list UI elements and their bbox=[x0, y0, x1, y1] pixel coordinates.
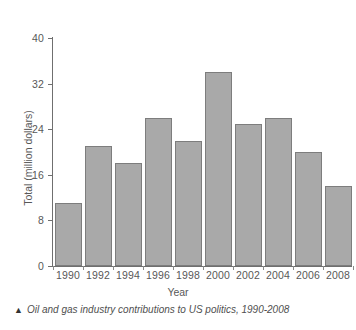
bar bbox=[235, 124, 262, 267]
x-tick-label: 2006 bbox=[293, 269, 323, 281]
bar bbox=[175, 141, 202, 266]
caption-text: Oil and gas industry contributions to US… bbox=[27, 304, 289, 315]
bar bbox=[325, 186, 352, 266]
bar bbox=[295, 152, 322, 266]
x-tick-label: 1994 bbox=[113, 269, 143, 281]
bar bbox=[85, 146, 112, 266]
x-tick-label: 1998 bbox=[173, 269, 203, 281]
bar-series bbox=[53, 38, 353, 266]
figure-container: 0816243240 19901992199419961998200020022… bbox=[0, 0, 356, 330]
x-axis-line bbox=[52, 266, 352, 267]
y-tick-label: 0 bbox=[38, 260, 44, 272]
x-tick-label: 2002 bbox=[233, 269, 263, 281]
bar bbox=[115, 163, 142, 266]
x-tick-label: 2008 bbox=[323, 269, 353, 281]
x-tick-label: 1992 bbox=[83, 269, 113, 281]
x-tick-label: 2000 bbox=[203, 269, 233, 281]
x-tick-label: 1990 bbox=[53, 269, 83, 281]
y-axis-title: Total (million dollars) bbox=[22, 78, 34, 238]
x-axis-title: Year bbox=[0, 286, 356, 298]
bar bbox=[55, 203, 82, 266]
bar bbox=[265, 118, 292, 266]
figure-caption: ▲Oil and gas industry contributions to U… bbox=[14, 304, 354, 315]
caption-triangle-icon: ▲ bbox=[14, 305, 23, 315]
y-tick-label: 8 bbox=[38, 214, 44, 226]
bar bbox=[205, 72, 232, 266]
x-axis-tick-labels: 1990199219941996199820002002200420062008 bbox=[53, 269, 353, 285]
bar bbox=[145, 118, 172, 266]
x-tick bbox=[353, 266, 354, 270]
x-tick-label: 1996 bbox=[143, 269, 173, 281]
y-tick-label: 40 bbox=[32, 32, 44, 44]
x-tick-label: 2004 bbox=[263, 269, 293, 281]
